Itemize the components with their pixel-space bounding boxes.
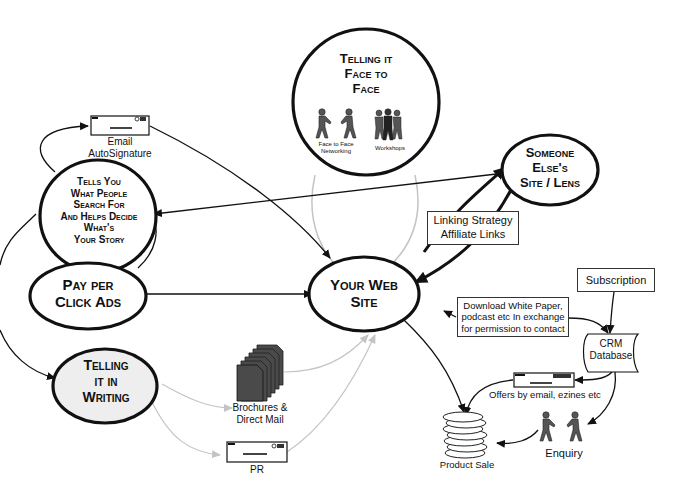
download-line2: podcast etc In exchange: [462, 311, 565, 322]
face-to-face-title: Telling it Face to Face: [318, 52, 414, 97]
email-envelope-icon: [91, 116, 149, 135]
tells-you-line3: Search For: [74, 199, 125, 211]
face-to-face-line3: Face: [353, 82, 380, 97]
offers-label: Offers by email, ezines etc: [480, 389, 610, 400]
linking-line2: Affiliate Links: [441, 228, 506, 242]
workshops-label: Workshops: [368, 145, 412, 152]
download-line3: for permission to contact: [461, 323, 565, 334]
writing-line3: Writing: [82, 389, 129, 405]
tells-you-title: Tells You What People Search For And Hel…: [44, 176, 154, 245]
offers-envelope-icon: [514, 373, 574, 387]
product-sale-label: Product Sale: [432, 459, 502, 470]
crm-line1: CRM: [586, 338, 636, 350]
writing-line2: it in: [95, 373, 118, 389]
networking-line2: Networking: [306, 148, 366, 155]
web-site-line2: Site: [350, 293, 377, 310]
networking-line1: Face to Face: [306, 141, 366, 148]
pay-per-click-line2: Click Ads: [55, 293, 121, 310]
crm-line2: Database: [586, 350, 636, 362]
tells-you-line1: Tells You: [77, 176, 121, 188]
networking-label: Face to Face Networking: [306, 141, 366, 154]
email-line1: Email: [80, 136, 160, 148]
face-to-face-line1: Telling it: [340, 52, 393, 67]
enquiry-label: Enquiry: [536, 447, 592, 460]
face-to-face-line2: Face to: [345, 67, 388, 82]
pay-per-click-line1: Pay per: [62, 276, 113, 293]
brochures-documents-icon: [237, 345, 283, 401]
brochures-line2: Direct Mail: [220, 414, 300, 426]
pay-per-click-title: Pay per Click Ads: [36, 276, 140, 311]
email-line2: AutoSignature: [80, 148, 160, 160]
tells-you-line6: Your Story: [74, 234, 125, 246]
someone-line3: Site / Lens: [520, 176, 580, 191]
tells-you-line4: And Helps Decide: [60, 211, 137, 223]
your-web-site-title: Your Web Site: [314, 276, 414, 311]
download-white-paper-box: Download White Paper, podcast etc In exc…: [457, 297, 569, 337]
someone-elses-site-title: Someone Else's Site / Lens: [504, 146, 596, 191]
brochures-line1: Brochures &: [220, 402, 300, 414]
tells-you-line5: What's: [84, 222, 114, 234]
linking-line1: Linking Strategy: [434, 214, 513, 228]
crm-database-label: CRM Database: [586, 338, 636, 362]
someone-line2: Else's: [532, 161, 567, 176]
writing-line1: Telling: [83, 357, 128, 373]
telling-in-writing-title: Telling it in Writing: [58, 357, 154, 405]
subscription-box: Subscription: [577, 268, 655, 292]
web-site-line1: Your Web: [330, 276, 398, 293]
subscription-label: Subscription: [586, 274, 647, 286]
product-sale-coins-icon: [443, 412, 487, 458]
someone-line1: Someone: [526, 146, 575, 161]
pr-label: PR: [237, 464, 277, 476]
pr-envelope-icon: [227, 442, 287, 462]
email-autosignature-label: Email AutoSignature: [80, 136, 160, 160]
linking-strategy-box: Linking Strategy Affiliate Links: [427, 211, 519, 245]
tells-you-line2: What People: [71, 188, 127, 200]
brochures-label: Brochures & Direct Mail: [220, 402, 300, 426]
enquiry-figures-icon: [540, 412, 582, 441]
download-line1: Download White Paper,: [463, 300, 562, 311]
